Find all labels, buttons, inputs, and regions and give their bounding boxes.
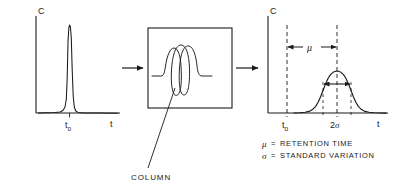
diagram-svg: C to t COLUMN <box>0 0 397 194</box>
legend-equals-0: = <box>271 139 276 148</box>
output-t0-label: to <box>282 120 289 132</box>
column-coil-icon <box>152 45 212 95</box>
legend-row-1: σ = STANDARD VARIATION <box>262 151 375 161</box>
output-width-label: 2σ <box>330 120 340 130</box>
output-peak-curve <box>294 71 386 113</box>
input-t0-label: to <box>65 120 72 132</box>
column-box-outline <box>148 28 232 108</box>
mean-label: μ <box>306 42 312 53</box>
input-peak-curve <box>38 25 118 113</box>
column-box <box>148 28 232 168</box>
output-x-axis-label: t <box>377 119 380 129</box>
output-t0-label-sub: o <box>285 125 289 132</box>
input-y-axis-label: C <box>38 6 45 16</box>
output-y-axis-label: C <box>270 6 277 16</box>
output-peak-chart: C μ to 2σ t <box>268 6 388 132</box>
column-leader-line <box>148 88 175 168</box>
legend-text-standard-variation: STANDARD VARIATION <box>280 151 375 160</box>
mean-span-arrow: μ <box>288 40 336 54</box>
output-width-label-symbol: σ <box>335 120 340 130</box>
input-peak-chart: C to t <box>36 6 120 132</box>
input-t0-label-sub: o <box>68 125 72 132</box>
column-label: COLUMN <box>131 173 171 182</box>
legend-text-retention-time: RETENTION TIME <box>280 139 353 148</box>
figure-container: C to t COLUMN <box>0 0 397 194</box>
legend-symbol-sigma: σ <box>262 151 267 161</box>
legend: μ = RETENTION TIME σ = STANDARD VARIATIO… <box>261 139 375 161</box>
legend-equals-1: = <box>271 151 276 160</box>
legend-symbol-mu: μ <box>261 139 267 149</box>
input-x-axis-label: t <box>110 119 113 129</box>
legend-row-0: μ = RETENTION TIME <box>261 139 353 149</box>
